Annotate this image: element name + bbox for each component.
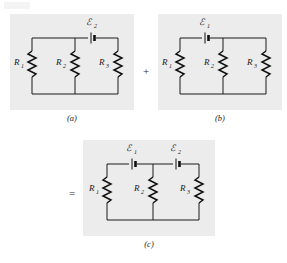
caption-panel-b: (b): [190, 114, 250, 123]
emf-label-e2-c: ℰ: [170, 143, 177, 153]
resistor-label-r2-c: R: [133, 183, 140, 193]
scan-artifact: [4, 2, 30, 9]
circuit-schematic-a: R 1 R 2 R 3 ℰ 2: [10, 14, 134, 110]
resistor-label-r1-b: R: [161, 57, 168, 67]
resistor-subscript-r1-b: 1: [169, 63, 172, 69]
circuit-schematic-b: R 1 R 2 R 3 ℰ 1: [158, 14, 282, 110]
resistor-symbol-r2-a: [71, 51, 79, 77]
circuit-panel-b: R 1 R 2 R 3 ℰ 1: [158, 14, 282, 110]
emf-label-e2-a: ℰ: [86, 17, 93, 27]
emf-subscript-e1-b: 1: [207, 23, 210, 29]
resistor-label-r3-b: R: [246, 57, 253, 67]
operator-equals: =: [64, 188, 80, 199]
figure-root: R 1 R 2 R 3 ℰ 2 + (a): [0, 0, 287, 263]
resistor-symbol-r2-c: [149, 177, 157, 203]
emf-label-e1-c: ℰ: [126, 143, 133, 153]
resistor-subscript-r3-c: 3: [186, 189, 190, 195]
caption-panel-c: (c): [119, 240, 179, 249]
emf-subscript-e2-c: 2: [178, 149, 181, 155]
resistor-subscript-r3-b: 3: [253, 63, 257, 69]
resistor-label-r2-b: R: [203, 57, 210, 67]
emf-subscript-e2-a: 2: [94, 23, 97, 29]
operator-plus: +: [138, 66, 154, 77]
emf-subscript-e1-c: 1: [134, 149, 137, 155]
resistor-subscript-r1-c: 1: [96, 189, 99, 195]
resistor-symbol-r3-a: [114, 51, 122, 77]
resistor-symbol-r1-a: [28, 51, 36, 77]
resistor-subscript-r2-b: 2: [211, 63, 214, 69]
resistor-symbol-r1-c: [103, 177, 111, 203]
resistor-label-r3-a: R: [98, 57, 105, 67]
resistor-symbol-r3-b: [262, 51, 270, 77]
circuit-schematic-c: R 1 R 2 R 3 ℰ 1 ℰ 2: [83, 140, 215, 236]
resistor-symbol-r2-b: [219, 51, 227, 77]
resistor-label-r3-c: R: [179, 183, 186, 193]
circuit-panel-a: R 1 R 2 R 3 ℰ 2: [10, 14, 134, 110]
resistor-subscript-r1-a: 1: [21, 63, 24, 69]
emf-label-e1-b: ℰ: [199, 17, 206, 27]
resistor-subscript-r2-a: 2: [63, 63, 66, 69]
resistor-label-r1-a: R: [13, 57, 20, 67]
resistor-subscript-r3-a: 3: [105, 63, 109, 69]
resistor-label-r2-a: R: [55, 57, 62, 67]
resistor-symbol-r1-b: [176, 51, 184, 77]
caption-panel-a: (a): [42, 114, 102, 123]
circuit-panel-c: R 1 R 2 R 3 ℰ 1 ℰ 2: [83, 140, 215, 236]
resistor-subscript-r2-c: 2: [141, 189, 144, 195]
resistor-symbol-r3-c: [195, 177, 203, 203]
resistor-label-r1-c: R: [88, 183, 95, 193]
